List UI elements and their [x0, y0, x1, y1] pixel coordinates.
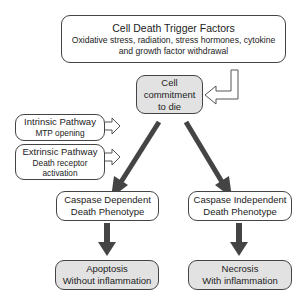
caspase-independent-box: Caspase Independent Death Phenotype [188, 191, 292, 221]
necrosis-detail: With inflammation [202, 275, 278, 287]
extrinsic-detail-2: activation [42, 168, 77, 179]
commitment-line-2: commitment [144, 89, 196, 101]
intrinsic-detail: MTP opening [35, 128, 84, 139]
intrinsic-pathway-box: Intrinsic Pathway MTP opening [15, 114, 105, 141]
apoptosis-title: Apoptosis [86, 263, 128, 275]
caspase-dependent-line-1: Caspase Dependent [64, 194, 151, 206]
arrow-to-apoptosis-icon [98, 242, 116, 256]
caspase-independent-line-2: Death Phenotype [203, 206, 276, 218]
cell-commitment-box: Cell commitment to die [136, 75, 203, 114]
apoptosis-detail: Without inflammation [63, 275, 152, 287]
caspase-dependent-box: Caspase Dependent Death Phenotype [56, 191, 159, 221]
necrosis-title: Necrosis [222, 263, 259, 275]
necrosis-box: Necrosis With inflammation [188, 260, 292, 290]
hollow-l-arrow-icon [205, 70, 238, 104]
apoptosis-box: Apoptosis Without inflammation [55, 260, 159, 290]
caspase-dependent-line-2: Death Phenotype [71, 206, 144, 218]
caspase-independent-line-1: Caspase Independent [194, 194, 287, 206]
extrinsic-hollow-arrow-icon [105, 149, 120, 165]
trigger-line-1: Oxidative stress, radiation, stress horm… [72, 35, 275, 46]
extrinsic-detail-1: Death receptor [33, 158, 88, 169]
trigger-line-2: and growth factor withdrawal [119, 46, 228, 57]
extrinsic-title: Extrinsic Pathway [23, 146, 98, 158]
intrinsic-title: Intrinsic Pathway [24, 116, 96, 128]
intrinsic-hollow-arrow-icon [105, 118, 120, 134]
arrow-to-necrosis-icon [230, 242, 248, 256]
commitment-line-3: to die [158, 101, 181, 113]
trigger-factors-box: Cell Death Trigger Factors Oxidative str… [61, 15, 286, 63]
trigger-title: Cell Death Trigger Factors [112, 22, 235, 35]
extrinsic-pathway-box: Extrinsic Pathway Death receptor activat… [15, 144, 105, 180]
commitment-line-1: Cell [161, 77, 177, 89]
